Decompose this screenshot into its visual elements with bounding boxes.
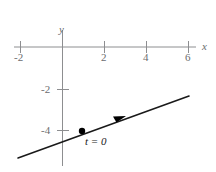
graph-figure: -2 2 4 6 -2 -4 x y t = 0 [0, 0, 216, 172]
x-tick-label-6: 6 [185, 52, 191, 63]
y-tick-label-minus2: -2 [41, 84, 50, 95]
x-tick-label-4: 4 [143, 52, 149, 63]
t-zero-point-marker [79, 128, 85, 134]
x-tick-label-2: 2 [101, 52, 107, 63]
plot-canvas [0, 0, 216, 172]
x-tick-label-minus2: -2 [14, 52, 23, 63]
x-axis-name: x [202, 41, 207, 52]
t-zero-annotation: t = 0 [85, 136, 106, 147]
y-tick-label-minus4: -4 [41, 125, 50, 136]
y-axis-name: y [59, 24, 64, 35]
